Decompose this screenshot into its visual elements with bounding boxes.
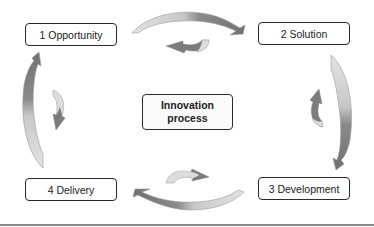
stage-box-solution: 2 Solution <box>258 22 350 45</box>
arrow-small-bottom-return-icon <box>166 169 209 183</box>
stage-label-delivery: 4 Delivery <box>48 184 95 196</box>
stage-label-opportunity: 1 Opportunity <box>39 29 102 41</box>
stage-box-delivery: 4 Delivery <box>25 178 117 201</box>
stage-label-solution: 2 Solution <box>281 28 328 40</box>
stage-box-opportunity: 1 Opportunity <box>25 23 117 46</box>
innovation-cycle-diagram: 1 Opportunity 2 Solution 3 Development 4… <box>0 0 374 227</box>
bottom-divider <box>0 224 374 226</box>
arrow-development-to-delivery-icon <box>133 189 244 210</box>
stage-label-development: 3 Development <box>269 183 340 195</box>
center-label-line2: process <box>167 112 207 125</box>
center-box-innovation-process: Innovation process <box>142 94 233 130</box>
center-label-line1: Innovation <box>161 99 214 112</box>
arrow-small-right-return-icon <box>310 89 323 127</box>
arrow-opportunity-to-solution-icon <box>132 12 245 35</box>
arrow-delivery-to-opportunity-icon <box>23 52 43 168</box>
arrow-small-top-return-icon <box>166 40 209 53</box>
stage-box-development: 3 Development <box>258 177 350 200</box>
arrow-small-left-return-icon <box>53 90 65 130</box>
arrow-solution-to-development-icon <box>331 55 352 170</box>
